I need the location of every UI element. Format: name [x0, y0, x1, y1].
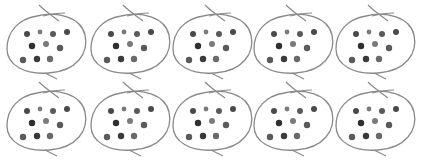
bag-row-top	[7, 5, 415, 79]
bag-row-bottom	[7, 82, 415, 156]
bag-5	[336, 5, 415, 79]
bag-6	[7, 82, 86, 156]
bag-4	[254, 5, 333, 79]
bag-1	[7, 5, 86, 79]
bag-10	[336, 82, 415, 156]
bag-2	[91, 5, 170, 79]
bag-8	[173, 82, 252, 156]
bag-7	[91, 82, 170, 156]
bags-diagram	[0, 0, 427, 160]
bag-3	[173, 5, 252, 79]
bag-9	[254, 82, 333, 156]
